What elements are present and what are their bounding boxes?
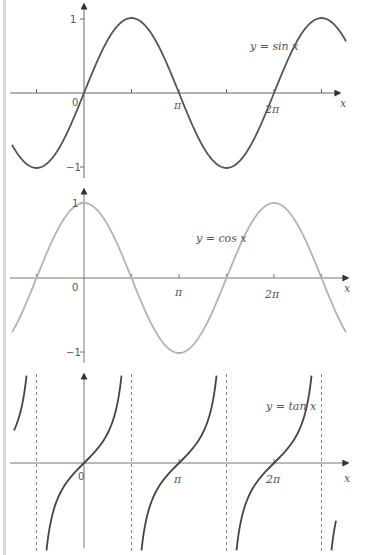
svg-text:x: x [344, 282, 351, 295]
cos-chart: 0 1 −1 π 2π x y = cos x [0, 185, 366, 370]
svg-text:2π: 2π [265, 473, 281, 486]
svg-text:0: 0 [72, 282, 78, 293]
svg-text:−1: −1 [66, 347, 81, 358]
svg-text:π: π [173, 473, 182, 486]
svg-text:1: 1 [70, 14, 76, 25]
svg-text:y = sin x: y = sin x [249, 40, 299, 53]
svg-text:x: x [344, 472, 351, 485]
svg-text:y = cos x: y = cos x [195, 232, 247, 245]
svg-text:π: π [173, 99, 182, 112]
svg-text:π: π [174, 286, 183, 299]
svg-text:y = tan x: y = tan x [265, 400, 317, 413]
sin-chart: 0 1 −1 π 2π x y = sin x [0, 0, 366, 185]
svg-text:−1: −1 [66, 162, 81, 173]
svg-text:1: 1 [72, 198, 78, 209]
svg-text:0: 0 [78, 471, 84, 482]
svg-text:2π: 2π [264, 288, 280, 301]
svg-text:2π: 2π [264, 103, 280, 116]
svg-text:x: x [340, 97, 347, 110]
svg-text:0: 0 [72, 97, 78, 108]
tan-chart: 0 π 2π x y = tan x [0, 370, 366, 555]
